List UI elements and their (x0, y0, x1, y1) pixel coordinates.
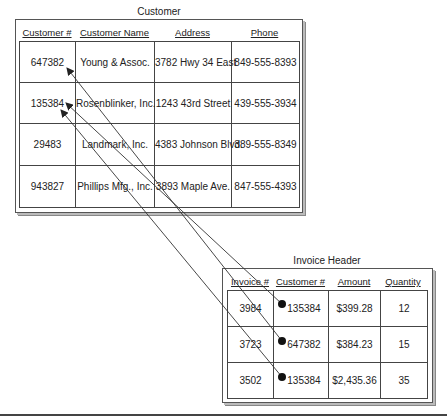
table-row: 29483 Landmark, Inc. 4383 Johnson Blvd. … (20, 124, 300, 166)
customer-table-title: Customer (15, 6, 303, 17)
invoice-table: 3984 135384 $399.28 12 3723 647382 $384.… (227, 290, 428, 399)
invoice-amount-cell: $399.28 (329, 291, 381, 327)
customer-name-cell: Phillips Mfg., Inc. (76, 166, 155, 208)
customer-num-cell: 943827 (20, 166, 76, 208)
invoice-num-cell: 3502 (228, 363, 274, 399)
invoice-customer-num-cell: 135384 (274, 291, 329, 327)
customer-phone-cell: 847-555-4393 (232, 166, 300, 208)
invoice-customer-num-cell: 135384 (274, 363, 329, 399)
customer-phone-cell: 849-555-8393 (232, 42, 300, 83)
customer-col-header-phone: Phone (231, 27, 298, 38)
invoice-col-header-customer-num: Customer # (273, 276, 328, 287)
customer-col-header-name: Customer Name (75, 27, 154, 38)
table-row: 3502 135384 $2,435.36 35 (228, 363, 428, 399)
table-row: 943827 Phillips Mfg., Inc. 3893 Maple Av… (20, 166, 300, 208)
invoice-quantity-cell: 35 (381, 363, 428, 399)
table-row: 647382 Young & Assoc. 3782 Hwy 34 East 8… (20, 42, 300, 83)
table-row: 135384 Rosenblinker, Inc. 1243 43rd Stre… (20, 83, 300, 124)
invoice-quantity-cell: 12 (381, 291, 428, 327)
bottom-divider (0, 414, 447, 416)
invoice-col-header-quantity: Quantity (380, 276, 426, 287)
customer-address-cell: 3893 Maple Ave. (155, 166, 232, 208)
customer-address-cell: 1243 43rd Street (155, 83, 232, 124)
invoice-customer-num-cell: 647382 (274, 327, 329, 363)
customer-table: 647382 Young & Assoc. 3782 Hwy 34 East 8… (19, 41, 300, 208)
invoice-col-header-amount: Amount (328, 276, 380, 287)
invoice-num-cell: 3723 (228, 327, 274, 363)
customer-col-header-customer-num: Customer # (19, 27, 75, 38)
customer-col-header-address: Address (154, 27, 231, 38)
table-row: 3723 647382 $384.23 15 (228, 327, 428, 363)
invoice-quantity-cell: 15 (381, 327, 428, 363)
customer-name-cell: Landmark, Inc. (76, 124, 155, 166)
customer-address-cell: 3782 Hwy 34 East (155, 42, 232, 83)
customer-num-cell: 135384 (20, 83, 76, 124)
customer-phone-cell: 439-555-3934 (232, 83, 300, 124)
customer-address-cell: 4383 Johnson Blvd. (155, 124, 232, 166)
customer-name-cell: Young & Assoc. (76, 42, 155, 83)
customer-phone-cell: 389-555-8349 (232, 124, 300, 166)
table-row: 3984 135384 $399.28 12 (228, 291, 428, 327)
customer-name-cell: Rosenblinker, Inc. (76, 83, 155, 124)
customer-num-cell: 647382 (20, 42, 76, 83)
invoice-amount-cell: $2,435.36 (329, 363, 381, 399)
invoice-col-header-invoice-num: Invoice # (227, 276, 273, 287)
invoice-num-cell: 3984 (228, 291, 274, 327)
customer-num-cell: 29483 (20, 124, 76, 166)
invoice-amount-cell: $384.23 (329, 327, 381, 363)
invoice-table-title: Invoice Header (222, 255, 432, 266)
